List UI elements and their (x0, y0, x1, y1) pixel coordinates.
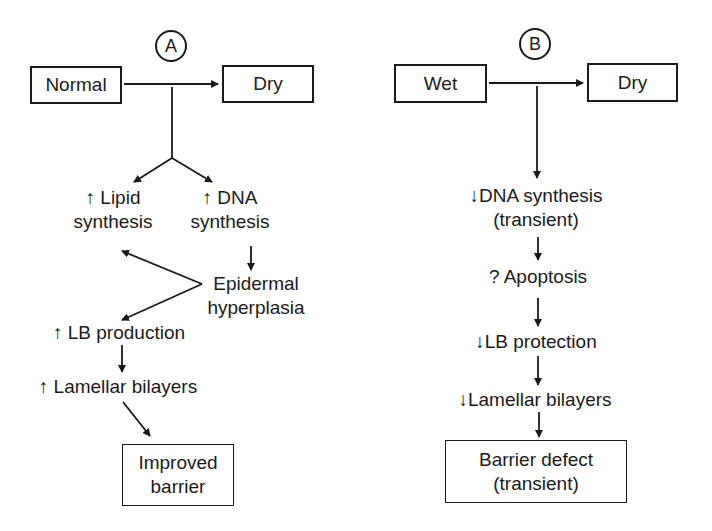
lamellar-decrease-text: ↓Lamellar bilayers (458, 389, 611, 410)
lamellar-increase-text: ↑ Lamellar bilayers (39, 376, 197, 397)
lb-protection-text: ↓LB protection (475, 331, 596, 352)
hyperplasia-line-2: hyperplasia (200, 296, 312, 320)
node-lamellar-decrease: ↓Lamellar bilayers (442, 388, 628, 412)
arrow-hyperplasia-to-lipid (122, 251, 202, 284)
arrow-to-lipid (134, 158, 172, 182)
arrow-lamellar-to-barrier (123, 402, 150, 436)
hyperplasia-line-1: Epidermal (200, 272, 312, 296)
dna-b-line-1: ↓DNA synthesis (456, 184, 616, 208)
lb-production-text: ↑ LB production (53, 322, 185, 343)
node-wet-label: Wet (424, 72, 457, 96)
panel-b-badge-text: B (529, 34, 541, 55)
barrier-defect-line-2: (transient) (493, 472, 579, 496)
panel-a-badge-text: A (165, 36, 177, 57)
apoptosis-text: ? Apoptosis (489, 266, 587, 287)
node-lb-production: ↑ LB production (44, 321, 194, 345)
node-dna-synthesis-a: ↑ DNA synthesis (180, 186, 280, 234)
node-dna-synthesis-b: ↓DNA synthesis (transient) (456, 184, 616, 232)
node-normal: Normal (30, 66, 122, 104)
node-lamellar-increase: ↑ Lamellar bilayers (30, 375, 206, 399)
node-improved-barrier: Improved barrier (122, 444, 234, 506)
panel-b-badge: B (519, 28, 551, 60)
node-epidermal-hyperplasia: Epidermal hyperplasia (200, 272, 312, 320)
node-lb-protection: ↓LB protection (456, 330, 616, 354)
node-barrier-defect: Barrier defect (transient) (445, 440, 627, 503)
dna-b-line-2: (transient) (456, 208, 616, 232)
node-dry-b-label: Dry (618, 71, 648, 95)
node-apoptosis: ? Apoptosis (470, 265, 606, 289)
lipid-line-2: synthesis (62, 210, 164, 234)
node-dry-b: Dry (587, 63, 678, 102)
improved-line-2: barrier (151, 475, 206, 499)
arrow-hyperplasia-to-lb (122, 284, 202, 320)
dna-a-line-2: synthesis (180, 210, 280, 234)
improved-line-1: Improved (138, 451, 217, 475)
barrier-defect-line-1: Barrier defect (479, 448, 593, 472)
panel-a-badge: A (155, 30, 187, 62)
node-dry-a-label: Dry (253, 72, 283, 96)
node-wet: Wet (394, 64, 487, 103)
node-lipid-synthesis: ↑ Lipid synthesis (62, 186, 164, 234)
node-normal-label: Normal (45, 73, 106, 97)
node-dry-a: Dry (222, 65, 314, 103)
lipid-line-1: ↑ Lipid (62, 186, 164, 210)
arrow-to-dna (172, 158, 212, 182)
dna-a-line-1: ↑ DNA (180, 186, 280, 210)
